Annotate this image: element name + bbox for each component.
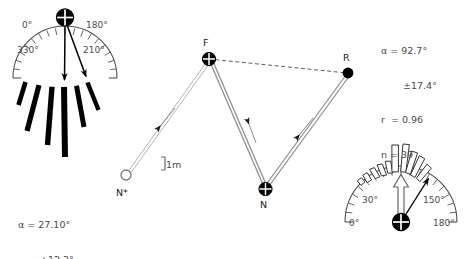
rose-left-label-210: 210°	[83, 45, 105, 55]
node-N: N	[259, 182, 272, 210]
path-segment-F-R	[209, 59, 347, 73]
rose-left-bar-1	[19, 82, 26, 105]
node-F-label: F	[203, 37, 208, 48]
scale-bar: 1m	[161, 157, 181, 170]
rose-left-center-crossed-circle-icon	[56, 8, 74, 26]
rose-left-bars	[19, 82, 99, 157]
scale-bar-label: 1m	[166, 159, 181, 170]
upper-left-circular-histogram: 0° 180° 330° 210°	[13, 8, 117, 157]
stats-right-sd: ±17.4°	[381, 80, 437, 92]
rose-right-center-crossed-circle-icon	[392, 213, 410, 231]
rose-left-bar-6	[88, 83, 99, 111]
stats-right-alpha: α = 92.7°	[381, 45, 437, 57]
node-R-label: R	[343, 52, 350, 63]
rose-left-bar-5	[77, 86, 85, 127]
stats-block-right: α = 92.7° ±17.4° r = 0.96 n = 39	[381, 22, 437, 172]
rose-left-mean-vector-1	[65, 26, 66, 80]
node-F: F	[202, 37, 215, 66]
rose-right-label-0: 0°	[349, 218, 359, 228]
rose-right-bar-1	[357, 178, 365, 186]
displacement-path-diagram: F R N N* 1m	[116, 37, 353, 210]
rose-left-bar-2	[27, 85, 39, 131]
rose-left-label-330: 330°	[17, 45, 39, 55]
path-segment-F-Nstar	[127, 62, 210, 175]
direction-arrow-N-F	[247, 119, 256, 143]
stats-right-n: n = 39	[381, 149, 437, 161]
node-Nstar-label: N*	[116, 187, 128, 198]
rose-left-bar-3	[48, 87, 53, 145]
rose-right-label-150: 150°	[423, 195, 445, 205]
figure-canvas: 0° 180° 330° 210°	[0, 0, 465, 259]
rose-left-label-0: 0°	[22, 20, 32, 30]
rose-left-label-180: 180°	[86, 20, 108, 30]
stats-left-sd: ±12.2°	[18, 254, 74, 259]
path-segment-R-N	[265, 75, 349, 188]
path-segment-N-F	[210, 61, 267, 187]
rose-right-label-180: 180°	[433, 218, 455, 228]
stats-right-r: r = 0.96	[381, 114, 437, 126]
stats-left-alpha: α = 27.10°	[18, 219, 74, 231]
direction-arrow-F-Nstar	[157, 108, 175, 130]
stats-block-left: α = 27.10° ±12.2° r = 0.98 n = 57	[18, 196, 74, 259]
node-N-label: N	[260, 199, 267, 210]
node-Nstar: N*	[116, 170, 131, 198]
rose-left-bar-4	[64, 87, 65, 157]
node-R: R	[343, 52, 354, 78]
rose-right-label-30: 30°	[362, 195, 378, 205]
